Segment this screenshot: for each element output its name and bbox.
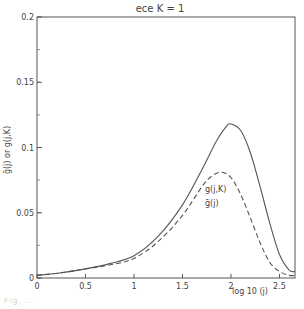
series-label-g-jk: g(j,K) <box>205 185 226 194</box>
chart: 00.511.522.500.050.10.150.2 ece K = 1 lo… <box>0 0 304 309</box>
y-tick-label: 0.15 <box>16 78 34 87</box>
x-axis-label: log 10 (j) <box>232 287 268 296</box>
y-tick-label: 0.05 <box>16 209 34 218</box>
chart-title: ece K = 1 <box>136 3 185 14</box>
series-line <box>37 124 295 276</box>
axis-ticks: 00.511.522.500.050.10.150.2 <box>16 13 286 291</box>
x-tick-label: 0.5 <box>79 282 92 291</box>
y-tick-label: 0.2 <box>21 13 34 22</box>
series-label-gbar-j: ḡ(j) <box>205 199 219 208</box>
x-tick-label: 0 <box>34 282 39 291</box>
x-tick-label: 1.5 <box>176 282 189 291</box>
plot-border <box>37 17 295 278</box>
figure-caption: Fig. ... <box>4 296 34 305</box>
x-tick-label: 1 <box>131 282 136 291</box>
x-tick-label: 2.5 <box>273 282 286 291</box>
y-tick-label: 0.1 <box>21 144 34 153</box>
series-lines <box>37 124 295 276</box>
y-tick-label: 0 <box>29 274 34 283</box>
plot-frame <box>37 17 295 278</box>
y-axis-label: ḡ(j) or g(j,K) <box>3 126 12 174</box>
series-line <box>37 172 295 275</box>
